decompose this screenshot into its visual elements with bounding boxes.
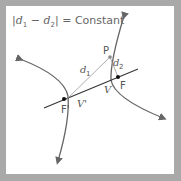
label-d2-sub: 2 (119, 63, 123, 71)
label-V-prime: V' (77, 98, 87, 109)
label-P: P (103, 45, 109, 56)
focus-F (116, 75, 120, 79)
label-F-prime: F' (61, 104, 70, 115)
label-d1-sub: 1 (86, 70, 90, 78)
label-V: V (104, 84, 113, 95)
focus-F-prime (62, 97, 66, 101)
hyperbola-diagram: P d 1 d 2 F F' V V' (0, 0, 181, 181)
label-F: F (120, 80, 126, 91)
